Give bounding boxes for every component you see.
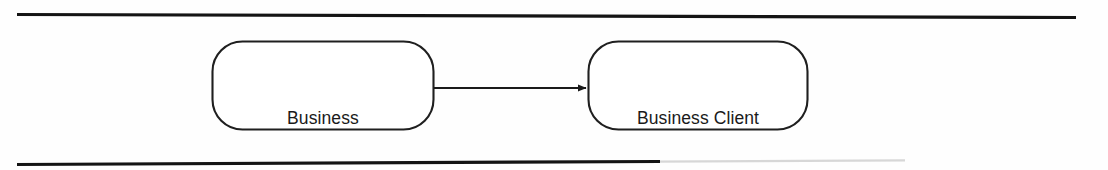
entity-label-line: Business Client bbox=[588, 106, 808, 131]
entity-label-business-client-history: Business Client History bbox=[588, 56, 808, 170]
entity-label-business-client: Business Client bbox=[212, 56, 434, 170]
top-rule bbox=[17, 15, 1076, 18]
diagram-svg bbox=[0, 0, 1108, 170]
entity-label-line: Business bbox=[212, 106, 434, 131]
figure-canvas: Business Client Business Client History bbox=[0, 0, 1108, 170]
